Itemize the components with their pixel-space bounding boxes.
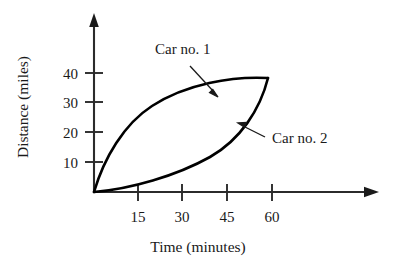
x-tick-label-60: 60 — [265, 209, 280, 225]
leader-line-car-2 — [243, 126, 265, 137]
data-curves-group — [94, 78, 268, 192]
x-tick-label-30: 30 — [175, 209, 190, 225]
y-tick-label-20: 20 — [63, 125, 78, 141]
x-tick-label-45: 45 — [220, 209, 235, 225]
x-tick-label-15: 15 — [131, 209, 146, 225]
y-tick-label-40: 40 — [63, 66, 78, 82]
series-curve-car-2 — [94, 78, 268, 192]
y-tick-labels-group: 40 30 20 10 — [63, 66, 78, 171]
leader-arrowhead-car-1 — [210, 90, 218, 97]
y-tick-label-10: 10 — [63, 155, 78, 171]
leader-arrowhead-car-2 — [238, 122, 246, 127]
series-curve-car-1 — [94, 78, 268, 192]
axes-group — [89, 13, 379, 197]
distance-time-chart-figure: 40 30 20 10 15 30 45 60 Time (minutes) D… — [0, 0, 401, 265]
x-tick-labels-group: 15 30 45 60 — [131, 209, 280, 225]
y-axis-arrowhead — [89, 13, 99, 27]
y-axis-title: Distance (miles) — [14, 56, 32, 158]
y-tick-label-30: 30 — [63, 95, 78, 111]
chart-canvas: 40 30 20 10 15 30 45 60 Time (minutes) D… — [0, 0, 401, 265]
series-label-car-2: Car no. 2 — [272, 130, 327, 146]
x-axis-title: Time (minutes) — [150, 238, 245, 256]
series-label-car-1: Car no. 1 — [155, 41, 210, 57]
x-axis-arrowhead — [364, 187, 379, 197]
